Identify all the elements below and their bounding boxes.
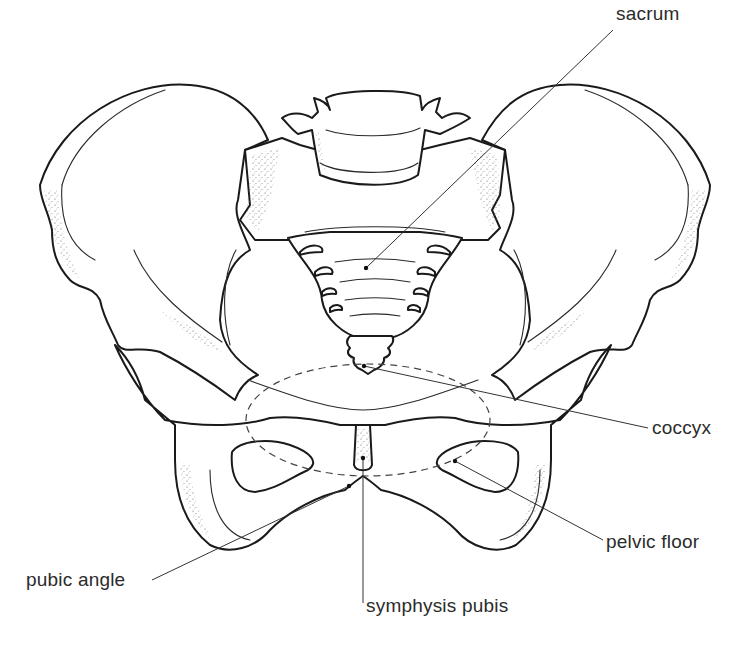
label-symphysis-pubis: symphysis pubis: [366, 596, 508, 615]
coccyx-bone: [347, 336, 393, 374]
label-coccyx: coccyx: [652, 418, 711, 437]
left-hip-bone: [40, 85, 268, 400]
label-pubic-angle: pubic angle: [26, 570, 125, 589]
label-pelvic-floor: pelvic floor: [606, 532, 699, 551]
label-sacrum: sacrum: [616, 4, 680, 23]
pelvis-diagram: [0, 0, 750, 651]
right-hip-bone: [482, 85, 710, 400]
